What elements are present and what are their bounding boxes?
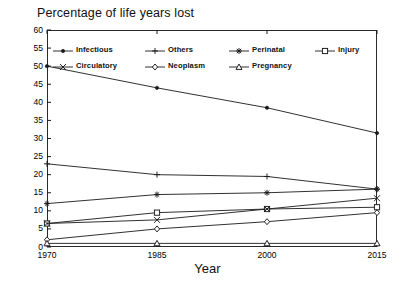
chart-legend: InfectiousOthersPerinatalInjuryCirculato… [52,42,372,72]
x-tick-label: 2015 [357,251,397,260]
legend-symbol-svg [144,45,166,57]
filled-circle-icon [52,43,74,55]
open-square-icon [314,43,336,55]
x-axis-title: Year [0,261,415,276]
legend-label: Injury [338,45,359,54]
legend-marker [322,48,327,53]
x-tick-label: 1985 [137,251,177,260]
legend-label: Circulatory [76,61,117,70]
legend-label: Infectious [76,45,113,54]
y-tick-label: 40 [25,98,43,107]
plus-icon [144,43,166,55]
legend-item-neoplasm[interactable]: Neoplasm [144,58,205,72]
y-tick-label: 10 [25,206,43,215]
y-tick-label: 15 [25,188,43,197]
legend-marker [61,49,64,52]
y-tick-label: 50 [25,62,43,71]
legend-label: Others [168,45,193,54]
legend-item-perinatal[interactable]: Perinatal [228,42,285,56]
legend-label: Neoplasm [168,61,205,70]
y-tick-label: 55 [25,44,43,53]
open-diamond-icon [144,59,166,71]
y-tick-label: 30 [25,134,43,143]
y-tick-label: 20 [25,170,43,179]
x-tick-label: 1970 [27,251,67,260]
legend-item-pregnancy[interactable]: Pregnancy [228,58,292,72]
legend-label: Pregnancy [252,61,292,70]
legend-symbol-svg [314,45,336,57]
y-tick-label: 45 [25,80,43,89]
legend-symbol-svg [52,45,74,57]
y-tick-label: 35 [25,116,43,125]
x-tick-label: 2000 [247,251,287,260]
cross-icon [52,59,74,71]
legend-item-injury[interactable]: Injury [314,42,359,56]
asterisk-icon [228,43,250,55]
legend-symbol-svg [144,61,166,73]
legend-item-infectious[interactable]: Infectious [52,42,113,56]
chart-figure: Percentage of life years lost 0510152025… [0,0,415,286]
y-tick-label: 5 [25,224,43,233]
legend-label: Perinatal [252,45,285,54]
y-tick-label: 25 [25,152,43,161]
legend-symbol-svg [52,61,74,73]
legend-marker [152,64,157,70]
y-tick-label: 60 [25,26,43,35]
legend-item-others[interactable]: Others [144,42,193,56]
legend-symbol-svg [228,45,250,57]
legend-symbol-svg [228,61,250,73]
open-triangle-icon [228,59,250,71]
chart-title: Percentage of life years lost [37,6,194,20]
legend-item-circulatory[interactable]: Circulatory [52,58,117,72]
